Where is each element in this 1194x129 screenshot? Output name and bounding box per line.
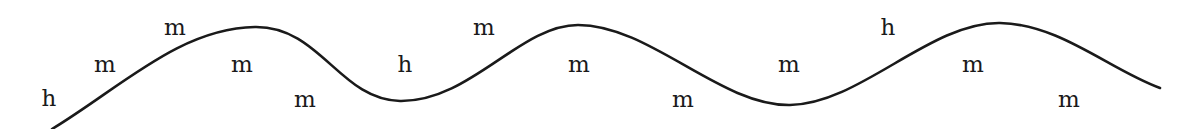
tone-label-5: m xyxy=(294,86,316,112)
pitch-contour-diagram: h m m m m h m m m m h m m xyxy=(0,0,1194,129)
tone-label-7: m xyxy=(473,14,495,40)
tone-label-13: m xyxy=(1058,86,1080,112)
tone-label-10: m xyxy=(778,51,800,77)
tone-label-1: h xyxy=(42,85,57,111)
pitch-contour-line xyxy=(52,23,1160,129)
tone-label-6: h xyxy=(398,51,413,77)
tone-label-12: m xyxy=(962,51,984,77)
tone-label-3: m xyxy=(164,14,186,40)
tone-label-8: m xyxy=(568,51,590,77)
tone-label-9: m xyxy=(672,86,694,112)
tone-label-2: m xyxy=(94,51,116,77)
tone-label-4: m xyxy=(231,51,253,77)
tone-label-11: h xyxy=(881,14,896,40)
